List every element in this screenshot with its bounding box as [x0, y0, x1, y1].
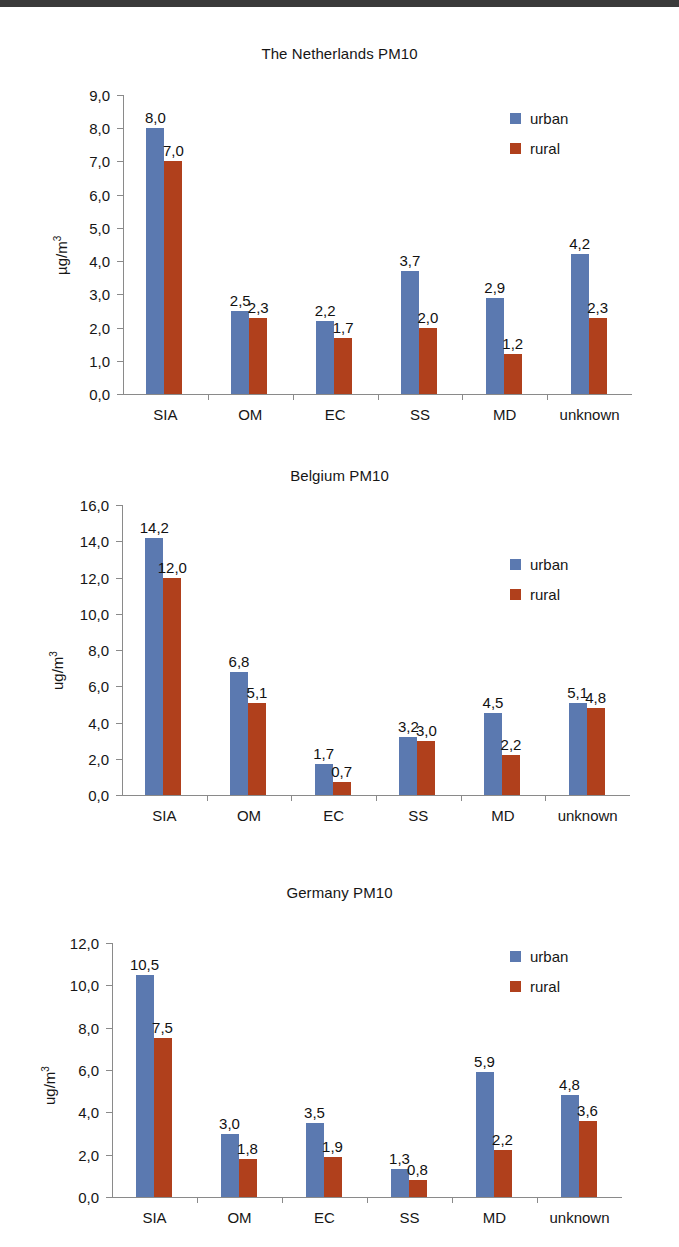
- x-axis-category-label: SS: [410, 406, 430, 423]
- bar-rural-ss: [409, 1180, 427, 1197]
- bar-urban-md: [476, 1072, 494, 1197]
- bar-urban-ec: [316, 321, 334, 394]
- y-tick-mark: [116, 686, 122, 687]
- bar-urban-md: [486, 298, 504, 394]
- bar-urban-ss: [401, 271, 419, 394]
- y-tick-mark: [116, 614, 122, 615]
- legend-swatch-urban-icon: [510, 559, 521, 570]
- y-tick-label: 6,0: [88, 678, 109, 695]
- bar-value-label: 7,0: [163, 142, 184, 159]
- legend-swatch-urban-icon: [510, 951, 521, 962]
- chart-title-germany: Germany PM10: [0, 884, 679, 901]
- legend-swatch-rural-icon: [510, 143, 521, 154]
- x-axis-category-label: MD: [483, 1209, 506, 1226]
- bar-urban-ss: [399, 737, 417, 795]
- bar-value-label: 4,2: [569, 235, 590, 252]
- y-tick-label: 2,0: [78, 1146, 99, 1163]
- x-axis-category-label: OM: [238, 406, 262, 423]
- bar-value-label: 2,3: [248, 299, 269, 316]
- y-tick-mark: [117, 361, 123, 362]
- y-tick-mark: [106, 943, 112, 944]
- x-axis-category-label: MD: [491, 807, 514, 824]
- bar-rural-md: [504, 354, 522, 394]
- legend-item-urban[interactable]: urban: [510, 110, 568, 127]
- y-tick-label: 2,0: [88, 750, 109, 767]
- bar-rural-unknown: [589, 318, 607, 394]
- x-axis-category-label: OM: [237, 807, 261, 824]
- bar-value-label: 1,8: [237, 1140, 258, 1157]
- bar-value-label: 4,5: [483, 694, 504, 711]
- bar-rural-ss: [419, 328, 437, 394]
- y-tick-label: 8,0: [89, 120, 110, 137]
- y-tick-label: 6,0: [78, 1062, 99, 1079]
- x-axis-category-label: SS: [408, 807, 428, 824]
- y-tick-mark: [116, 578, 122, 579]
- x-tick-mark: [452, 1197, 453, 1203]
- chart-title-belgium: Belgium PM10: [0, 467, 679, 484]
- bar-value-label: 4,8: [585, 689, 606, 706]
- legend-label-rural: rural: [530, 140, 560, 157]
- y-tick-mark: [106, 985, 112, 986]
- y-tick-label: 12,0: [70, 935, 99, 952]
- bar-value-label: 3,6: [577, 1102, 598, 1119]
- y-tick-label: 0,0: [88, 787, 109, 804]
- bar-rural-sia: [163, 578, 181, 796]
- y-tick-mark: [117, 328, 123, 329]
- bar-rural-ec: [334, 338, 352, 394]
- chart-title-netherlands: The Netherlands PM10: [0, 45, 679, 62]
- x-tick-mark: [461, 795, 462, 801]
- bar-urban-sia: [146, 128, 164, 394]
- bar-value-label: 5,9: [474, 1053, 495, 1070]
- page-top-band: [0, 0, 679, 7]
- x-axis-category-label: SIA: [152, 807, 176, 824]
- x-tick-mark: [208, 394, 209, 400]
- legend-item-urban[interactable]: urban: [510, 948, 568, 965]
- legend-label-urban: urban: [530, 556, 568, 573]
- y-tick-label: 10,0: [70, 977, 99, 994]
- bar-urban-om: [221, 1134, 239, 1198]
- bar-urban-om: [231, 311, 249, 394]
- bar-rural-unknown: [587, 708, 605, 795]
- x-axis-category-label: SS: [399, 1209, 419, 1226]
- y-tick-mark: [106, 1112, 112, 1113]
- y-tick-label: 3,0: [89, 286, 110, 303]
- x-tick-mark: [282, 1197, 283, 1203]
- y-tick-label: 12,0: [80, 569, 109, 586]
- bar-urban-unknown: [569, 703, 587, 795]
- bar-value-label: 8,0: [145, 109, 166, 126]
- bar-urban-sia: [136, 975, 154, 1197]
- bar-value-label: 1,2: [502, 335, 523, 352]
- y-axis-label-exponent: 3: [48, 651, 59, 657]
- y-axis-label-base: µg/m: [53, 241, 70, 275]
- bar-value-label: 0,7: [331, 763, 352, 780]
- legend-item-rural[interactable]: rural: [510, 978, 568, 995]
- y-tick-label: 6,0: [89, 186, 110, 203]
- y-tick-mark: [117, 394, 123, 395]
- legend-swatch-rural-icon: [510, 589, 521, 600]
- legend-germany: urbanrural: [510, 948, 568, 1008]
- y-tick-label: 4,0: [88, 714, 109, 731]
- bar-value-label: 2,0: [417, 309, 438, 326]
- bar-rural-ss: [417, 741, 435, 795]
- bar-urban-sia: [145, 538, 163, 795]
- y-axis-line: [122, 505, 123, 795]
- bar-value-label: 14,2: [140, 519, 169, 536]
- legend-swatch-rural-icon: [510, 981, 521, 992]
- plot-area-belgium: 0,02,04,06,08,010,012,014,016,0SIA14,212…: [122, 505, 630, 795]
- bar-value-label: 1,7: [313, 745, 334, 762]
- y-tick-mark: [117, 294, 123, 295]
- legend-item-rural[interactable]: rural: [510, 140, 568, 157]
- y-tick-label: 7,0: [89, 153, 110, 170]
- y-axis-label-exponent: 3: [52, 236, 63, 242]
- x-axis-category-label: EC: [323, 807, 344, 824]
- y-axis-line: [112, 943, 113, 1197]
- legend-item-rural[interactable]: rural: [510, 586, 568, 603]
- x-axis-category-label: MD: [493, 406, 516, 423]
- legend-netherlands: urbanrural: [510, 110, 568, 170]
- bar-urban-unknown: [571, 254, 589, 394]
- y-axis-label-base: ug/m: [41, 1072, 58, 1105]
- x-tick-mark: [367, 1197, 368, 1203]
- x-tick-mark: [462, 394, 463, 400]
- bar-rural-sia: [164, 161, 182, 394]
- legend-item-urban[interactable]: urban: [510, 556, 568, 573]
